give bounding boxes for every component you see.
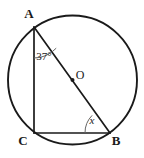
center-point-dot [71, 78, 75, 82]
circle-geometry-diagram: A B C O 37° x [0, 0, 144, 158]
vertex-label-B: B [112, 133, 121, 148]
geometry-figure-container: A B C O 37° x [0, 0, 144, 158]
center-label-O: O [76, 68, 85, 82]
angle-label-37-degrees: 37° [36, 50, 51, 62]
angle-label-x: x [89, 114, 95, 126]
vertex-label-A: A [24, 6, 34, 21]
vertex-label-C: C [18, 133, 27, 148]
